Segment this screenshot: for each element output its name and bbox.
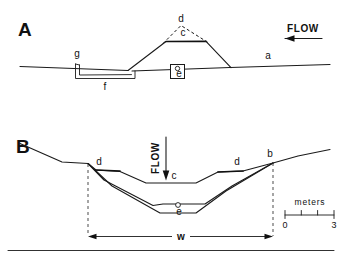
panel-a-label-d: d [178, 13, 184, 24]
panel-b-label-w: w [176, 231, 185, 242]
panel-a-letter: A [18, 19, 32, 40]
panel-b-label-d-right: d [234, 156, 240, 167]
panel-a-flow-label: FLOW [287, 23, 319, 34]
panel-b: B FLOW d [8, 136, 337, 251]
panel-b-left-ground-surface [20, 144, 88, 164]
panel-a-label-c: c [181, 27, 186, 38]
figure-container: A e f g c d a [0, 0, 342, 256]
panel-a-flow-arrow-icon [285, 35, 322, 41]
scientific-figure: A e f g c d a [0, 0, 342, 256]
panel-a-bed-line-left [20, 67, 128, 71]
panel-b-label-b: b [267, 148, 273, 159]
panel-b-left-terrace-surface [96, 170, 120, 171]
panel-a-label-a: a [265, 50, 271, 61]
panel-b-width-arrow-right [265, 234, 274, 239]
panel-a-flow-arrow-head [285, 35, 295, 41]
scale-bar-min-label: 0 [282, 220, 287, 230]
panel-b-width-dimension: w [88, 229, 273, 243]
panel-a-mound-right-flank [206, 41, 231, 67]
panel-a-trough-outer [76, 64, 136, 79]
panel-b-label-c: c [172, 170, 177, 181]
panel-b-middle-fill-surface [88, 163, 273, 206]
panel-a-mound-left-flank [128, 42, 166, 71]
panel-b-flow-label: FLOW [150, 142, 161, 174]
panel-b-flow-arrow-icon [163, 137, 170, 181]
panel-b-width-arrow-left [88, 234, 97, 239]
panel-b-label-e: e [176, 206, 182, 217]
panel-b-right-terrace-surface [218, 171, 243, 172]
panel-a-trough-lip-g [76, 64, 80, 65]
scale-bar-max-label: 3 [331, 220, 336, 230]
panel-a-label-g: g [74, 48, 80, 59]
panel-b-scale-bar: meters 0 3 [282, 197, 336, 230]
panel-a-label-f: f [104, 81, 107, 92]
panel-a: A e f g c d a [18, 13, 330, 92]
panel-a-label-e: e [176, 68, 182, 79]
panel-b-right-ground-surface [273, 150, 330, 164]
scale-bar-unit-label: meters [295, 197, 326, 207]
panel-b-label-d-left: d [96, 156, 102, 167]
panel-b-flow-arrow-head [163, 171, 170, 181]
